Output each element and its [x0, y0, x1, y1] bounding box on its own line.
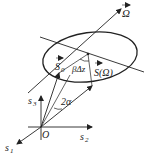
s-omega-label: S(Ω): [94, 67, 114, 79]
s3-label: s: [28, 95, 32, 106]
origin-label: O: [42, 129, 49, 140]
s1-subscript: 1: [10, 147, 14, 155]
s0-label: S: [55, 61, 60, 72]
omega-label: Ω: [122, 7, 130, 19]
s1-axis: [17, 127, 41, 144]
beta-dz-label: βΔz: [71, 64, 86, 74]
rotation-ellipse: [40, 26, 141, 88]
two-alpha-label: 2α: [61, 96, 72, 107]
ellipse-center-dot: [87, 53, 90, 56]
beta-dz-arc: [80, 59, 89, 61]
s3-subscript: 3: [32, 100, 37, 108]
s2-subscript: 2: [85, 136, 89, 144]
s0-subscript: 0: [61, 66, 65, 74]
omega-axis: [28, 9, 121, 93]
poincare-rotation-diagram: Ω S 0 βΔz S(Ω) 2α s 3 O s 2 s 1: [0, 0, 152, 161]
s1-label: s: [5, 142, 9, 153]
two-alpha-arc: [54, 108, 62, 109]
s2-label: s: [80, 131, 84, 142]
